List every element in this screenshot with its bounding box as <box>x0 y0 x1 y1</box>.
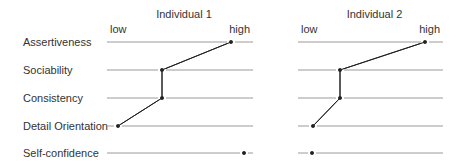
individual-1-data-point <box>160 96 164 100</box>
individual-1-data-point <box>160 68 164 72</box>
individual-2-data-point <box>310 151 314 155</box>
individual-2-data-point <box>338 68 342 72</box>
individual-2-data-point <box>423 40 427 44</box>
individual-2-data-point <box>338 96 342 100</box>
individual-1-data-point <box>116 124 120 128</box>
individual-2-profile-line <box>313 42 425 126</box>
individual-1-low-label: low <box>110 23 127 35</box>
individual-2-profile-line-overlay <box>313 42 425 126</box>
individual-1-data-point <box>229 40 233 44</box>
individual-1-data-point <box>242 151 246 155</box>
individual-1-profile-line <box>118 42 231 126</box>
diagram-canvas: AssertivenessSociabilityConsistencyDetai… <box>0 0 462 168</box>
trait-label-sociability: Sociability <box>23 64 73 76</box>
individual-2-data-point <box>311 124 315 128</box>
individual-2-low-label: low <box>301 23 318 35</box>
trait-label-detail-orientation: Detail Orientation <box>23 120 108 132</box>
individual-2-high-label: high <box>419 23 440 35</box>
trait-label-assertiveness: Assertiveness <box>23 36 92 48</box>
trait-label-self-confidence: Self-confidence <box>23 147 99 159</box>
individual-1-high-label: high <box>229 23 250 35</box>
individual-2-title: Individual 2 <box>347 8 403 20</box>
trait-label-consistency: Consistency <box>23 92 83 104</box>
individual-1-title: Individual 1 <box>156 8 212 20</box>
individual-1-profile-line-overlay <box>118 42 231 126</box>
